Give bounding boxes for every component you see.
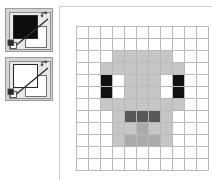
pixel-cell[interactable] [149, 39, 160, 50]
pixel-cell[interactable] [113, 123, 124, 134]
pixel-cell[interactable] [137, 123, 148, 134]
pixel-cell[interactable] [113, 159, 124, 170]
pixel-cell[interactable] [185, 63, 196, 74]
pixel-cell[interactable] [197, 39, 208, 50]
pixel-cell[interactable] [113, 51, 124, 62]
pixel-cell[interactable] [137, 147, 148, 158]
pixel-cell[interactable] [89, 147, 100, 158]
pixel-cell[interactable] [89, 99, 100, 110]
pixel-cell[interactable] [125, 159, 136, 170]
foreground-color-swatch[interactable] [13, 64, 38, 88]
pixel-cell[interactable] [197, 123, 208, 134]
default-colors-icon[interactable] [7, 39, 18, 50]
pixel-cell[interactable] [197, 87, 208, 98]
pixel-cell[interactable] [101, 39, 112, 50]
pixel-cell[interactable] [173, 75, 184, 86]
pixel-cell[interactable] [137, 63, 148, 74]
pixel-cell[interactable] [173, 39, 184, 50]
pixel-cell[interactable] [89, 75, 100, 86]
pixel-cell[interactable] [137, 39, 148, 50]
pixel-cell[interactable] [77, 111, 88, 122]
pixel-cell[interactable] [197, 51, 208, 62]
swap-arrows-icon[interactable] [39, 10, 50, 21]
pixel-cell[interactable] [185, 39, 196, 50]
pixel-cell[interactable] [125, 63, 136, 74]
pixel-cell[interactable] [101, 111, 112, 122]
default-colors-icon[interactable] [7, 88, 18, 99]
pixel-cell[interactable] [113, 87, 124, 98]
pixel-cell[interactable] [161, 111, 172, 122]
pixel-cell[interactable] [173, 99, 184, 110]
pixel-cell[interactable] [125, 75, 136, 86]
pixel-cell[interactable] [161, 75, 172, 86]
pixel-cell[interactable] [125, 27, 136, 38]
pixel-cell[interactable] [137, 87, 148, 98]
pixel-cell[interactable] [161, 27, 172, 38]
pixel-cell[interactable] [89, 39, 100, 50]
pixel-cell[interactable] [89, 135, 100, 146]
pixel-cell[interactable] [77, 39, 88, 50]
pixel-cell[interactable] [173, 159, 184, 170]
pixel-cell[interactable] [137, 51, 148, 62]
pixel-cell[interactable] [77, 135, 88, 146]
pixel-cell[interactable] [173, 27, 184, 38]
pixel-cell[interactable] [161, 135, 172, 146]
pixel-cell[interactable] [149, 51, 160, 62]
pixel-cell[interactable] [197, 135, 208, 146]
pixel-cell[interactable] [125, 51, 136, 62]
pixel-cell[interactable] [149, 111, 160, 122]
pixel-cell[interactable] [149, 75, 160, 86]
pixel-cell[interactable] [185, 27, 196, 38]
swap-arrows-icon[interactable] [39, 59, 50, 70]
pixel-cell[interactable] [101, 63, 112, 74]
pixel-cell[interactable] [161, 87, 172, 98]
pixel-cell[interactable] [113, 111, 124, 122]
pixel-cell[interactable] [161, 51, 172, 62]
pixel-cell[interactable] [77, 63, 88, 74]
pixel-cell[interactable] [185, 99, 196, 110]
pixel-cell[interactable] [77, 75, 88, 86]
pixel-cell[interactable] [197, 159, 208, 170]
pixel-cell[interactable] [149, 123, 160, 134]
pixel-cell[interactable] [77, 27, 88, 38]
pixel-cell[interactable] [101, 75, 112, 86]
pixel-cell[interactable] [173, 111, 184, 122]
pixel-cell[interactable] [113, 75, 124, 86]
pixel-cell[interactable] [173, 147, 184, 158]
pixel-cell[interactable] [101, 135, 112, 146]
pixel-cell[interactable] [185, 135, 196, 146]
pixel-cell[interactable] [137, 75, 148, 86]
pixel-cell[interactable] [173, 63, 184, 74]
pixel-cell[interactable] [113, 27, 124, 38]
pixel-cell[interactable] [197, 63, 208, 74]
pixel-cell[interactable] [89, 27, 100, 38]
pixel-cell[interactable] [125, 39, 136, 50]
pixel-grid-canvas[interactable] [76, 26, 209, 171]
pixel-cell[interactable] [77, 147, 88, 158]
pixel-cell[interactable] [149, 135, 160, 146]
pixel-cell[interactable] [101, 27, 112, 38]
pixel-cell[interactable] [77, 51, 88, 62]
pixel-cell[interactable] [185, 111, 196, 122]
pixel-cell[interactable] [149, 27, 160, 38]
pixel-cell[interactable] [161, 39, 172, 50]
pixel-cell[interactable] [197, 99, 208, 110]
pixel-cell[interactable] [137, 159, 148, 170]
pixel-cell[interactable] [197, 111, 208, 122]
pixel-cell[interactable] [101, 147, 112, 158]
pixel-cell[interactable] [89, 123, 100, 134]
pixel-cell[interactable] [89, 159, 100, 170]
pixel-cell[interactable] [125, 87, 136, 98]
pixel-cell[interactable] [161, 147, 172, 158]
pixel-cell[interactable] [137, 99, 148, 110]
pixel-cell[interactable] [185, 75, 196, 86]
pixel-cell[interactable] [125, 135, 136, 146]
pixel-cell[interactable] [101, 99, 112, 110]
pixel-cell[interactable] [173, 135, 184, 146]
pixel-cell[interactable] [149, 87, 160, 98]
pixel-cell[interactable] [125, 111, 136, 122]
pixel-cell[interactable] [89, 51, 100, 62]
pixel-cell[interactable] [101, 51, 112, 62]
pixel-cell[interactable] [113, 99, 124, 110]
pixel-cell[interactable] [77, 87, 88, 98]
